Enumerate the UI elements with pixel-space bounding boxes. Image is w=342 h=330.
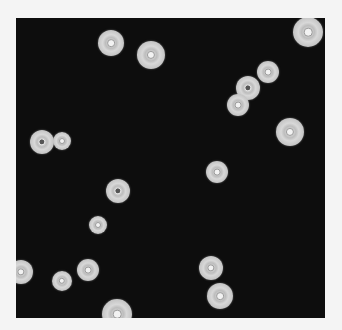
cell: [53, 132, 71, 150]
cell-nucleus: [216, 292, 224, 300]
cell-nucleus: [59, 278, 65, 284]
cell-nucleus: [114, 187, 121, 194]
cell-nucleus: [265, 69, 272, 76]
cell-nucleus: [304, 28, 313, 37]
cell: [106, 179, 130, 203]
cell: [276, 118, 304, 146]
microscopy-image: [16, 18, 325, 318]
cell-nucleus: [244, 84, 251, 91]
cell-nucleus: [38, 138, 45, 145]
cell: [98, 30, 124, 56]
cell: [206, 161, 228, 183]
cell: [16, 260, 33, 284]
cell: [89, 216, 107, 234]
cell: [52, 271, 72, 291]
cell-nucleus: [113, 310, 122, 318]
cell-nucleus: [147, 51, 155, 59]
cell: [227, 94, 249, 116]
cell: [137, 41, 165, 69]
cell-nucleus: [235, 102, 242, 109]
cell-nucleus: [207, 264, 214, 271]
cell-nucleus: [59, 138, 65, 144]
cell-nucleus: [17, 268, 24, 275]
cell-nucleus: [286, 128, 294, 136]
cell-nucleus: [95, 222, 101, 228]
cell-nucleus: [107, 39, 115, 47]
cell-nucleus: [85, 267, 92, 274]
cell-nucleus: [214, 169, 221, 176]
cell: [77, 259, 99, 281]
cell: [207, 283, 233, 309]
cell: [102, 299, 132, 318]
cell: [30, 130, 54, 154]
cell: [199, 256, 223, 280]
cell: [293, 18, 323, 47]
cell: [257, 61, 279, 83]
